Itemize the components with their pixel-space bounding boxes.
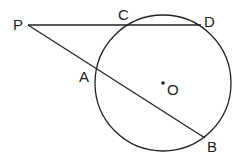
- label-b: B: [207, 138, 217, 155]
- center-point: [161, 81, 165, 85]
- label-p: P: [13, 16, 23, 33]
- label-d: D: [204, 13, 215, 30]
- label-a: A: [79, 68, 89, 85]
- label-c: C: [118, 6, 129, 23]
- geometry-diagram: P C D A B O: [0, 0, 240, 161]
- label-o: O: [167, 81, 179, 98]
